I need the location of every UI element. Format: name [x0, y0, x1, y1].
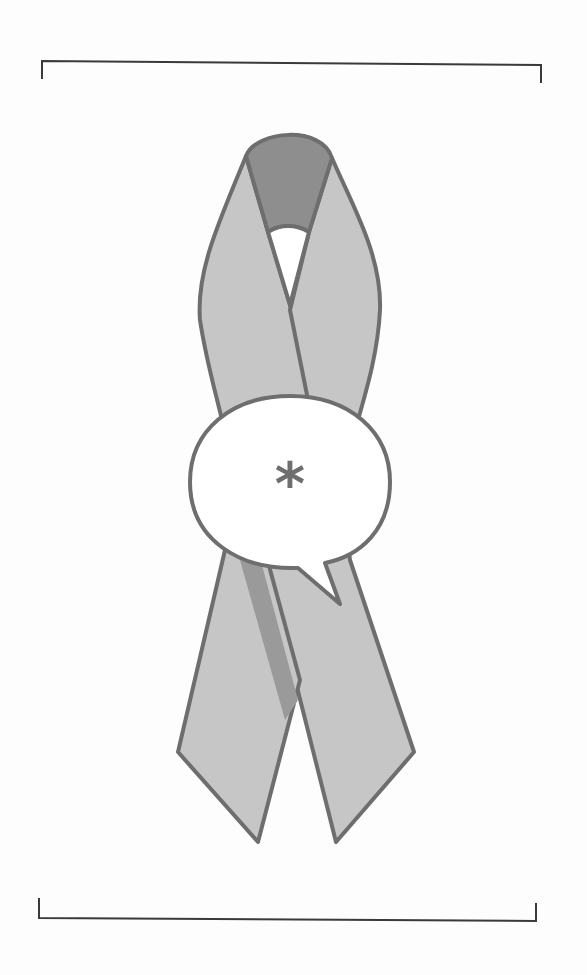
crop-mark-top	[42, 61, 541, 83]
crop-mark-bottom	[39, 898, 536, 921]
page-canvas: *	[0, 0, 587, 975]
asterisk-glyph: *	[240, 455, 340, 513]
